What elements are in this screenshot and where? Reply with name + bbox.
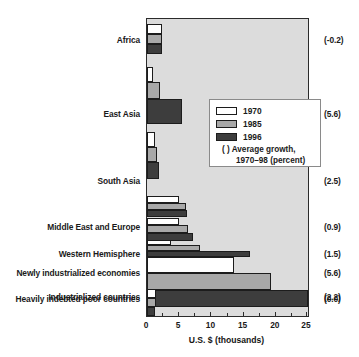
x-ticklabel: 5 (176, 320, 181, 330)
x-ticklabel: 25 (301, 320, 310, 330)
bar-group-heavily-indebted-poor-countries (147, 289, 308, 316)
x-tick-minor (162, 313, 163, 317)
legend-row-1985: 1985 (216, 118, 315, 130)
bar-east-asia-1996 (147, 99, 182, 124)
legend-swatch-1985 (216, 120, 237, 128)
x-tick-minor (259, 313, 260, 317)
bar-south-asia-1985 (147, 147, 157, 162)
growth-value: (0.0) (324, 294, 341, 304)
legend-row-1996: 1996 (216, 131, 315, 143)
chart-figure: Africa East Asia South Asia Middle East … (0, 0, 359, 357)
legend-swatch-1996 (216, 133, 237, 141)
growth-value: (1.5) (324, 249, 341, 259)
chart-legend: 1970 1985 1996 ( ) Average growth, 1970–… (209, 99, 321, 167)
bar-heavily-indebted-poor-countries-1985 (147, 298, 156, 307)
x-ticklabel: 0 (144, 320, 149, 330)
x-tick-major (210, 312, 211, 317)
bar-group-western-hemisphere (147, 218, 308, 241)
bar-south-asia-1996 (147, 162, 159, 179)
category-label: Africa (117, 35, 140, 45)
category-label: Heavily indebted poor countries (16, 294, 140, 304)
category-label: Middle East and Europe (47, 222, 140, 232)
bar-south-asia-1970 (147, 132, 155, 147)
bar-east-asia-1970 (147, 67, 153, 82)
x-tick-major (243, 312, 244, 317)
x-tick-major (178, 312, 179, 317)
x-tick-major (306, 312, 307, 317)
bar-east-asia-1985 (147, 82, 160, 99)
bar-africa-1996 (147, 44, 162, 54)
plot-area: 1970 1985 1996 ( ) Average growth, 1970–… (146, 18, 309, 317)
legend-note-line2: 1970–98 (percent) (222, 156, 315, 167)
legend-note: ( ) Average growth, 1970–98 (percent) (216, 145, 315, 166)
x-ticklabel: 15 (238, 320, 247, 330)
category-label: Western Hemisphere (59, 249, 140, 259)
x-tick-minor (291, 313, 292, 317)
growth-value: (-0.2) (324, 35, 343, 45)
legend-swatch-1970 (216, 107, 237, 115)
x-tick-major (146, 312, 147, 317)
x-tick-minor (227, 313, 228, 317)
growth-value: (5.6) (324, 109, 341, 119)
x-tick-major (275, 312, 276, 317)
bar-middle-east-and-europe-1996 (147, 210, 187, 217)
x-axis-title: U.S. $ (thousands) (146, 335, 307, 345)
x-ticklabel: 20 (270, 320, 279, 330)
legend-note-line1: ( ) Average growth, (222, 145, 296, 154)
legend-label-1970: 1970 (243, 106, 262, 116)
x-ticklabel: 10 (206, 320, 215, 330)
bar-industrialized-countries-1985 (147, 273, 271, 290)
bar-middle-east-and-europe-1985 (147, 203, 186, 210)
bar-industrialized-countries-1970 (147, 257, 234, 273)
bar-western-hemisphere-1970 (147, 218, 179, 225)
bar-heavily-indebted-poor-countries-1996 (147, 307, 155, 316)
x-tick-minor (194, 313, 195, 317)
bar-western-hemisphere-1985 (147, 225, 188, 233)
growth-value: (2.5) (324, 176, 341, 186)
category-axis: Africa East Asia South Asia Middle East … (0, 18, 143, 315)
bar-middle-east-and-europe-1970 (147, 196, 179, 203)
category-label: East Asia (104, 109, 141, 119)
growth-value: (5.6) (324, 268, 341, 278)
bar-group-africa (147, 24, 308, 54)
bar-africa-1970 (147, 24, 162, 34)
growth-value: (0.9) (324, 222, 341, 232)
category-label: South Asia (98, 176, 140, 186)
bar-group-newly-industrialized-economies (147, 240, 308, 257)
legend-row-1970: 1970 (216, 105, 315, 117)
category-label: Newly industrialized economies (16, 268, 140, 278)
x-axis: 0 5 10 15 20 25 U.S. $ (thousands) (146, 316, 307, 356)
growth-annotation-column: (-0.2) (5.6) (2.5) (0.9) (1.5) (5.6) (2.… (312, 18, 359, 315)
bar-heavily-indebted-poor-countries-1970 (147, 289, 156, 298)
bar-group-middle-east-and-europe (147, 196, 308, 219)
bar-africa-1985 (147, 34, 162, 44)
legend-label-1996: 1996 (243, 132, 262, 142)
legend-label-1985: 1985 (243, 119, 262, 129)
